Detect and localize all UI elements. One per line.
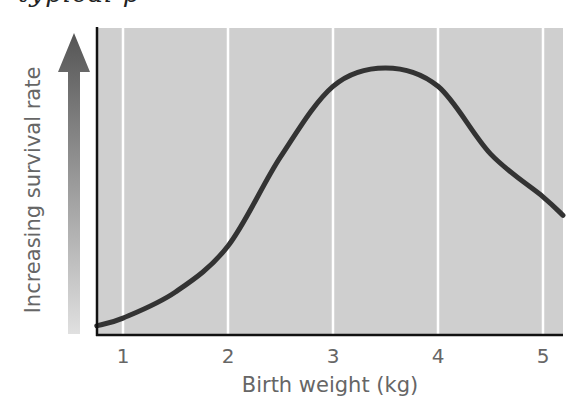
chart-canvas: Increasing survival rate 12345 Birth wei… (0, 0, 580, 413)
x-tick-label: 5 (537, 344, 550, 368)
x-tick-labels: 12345 (117, 344, 550, 368)
x-axis-label: Birth weight (kg) (242, 373, 418, 397)
cropped-caption-text: typical p (18, 0, 140, 8)
y-axis-label: Increasing survival rate (21, 67, 45, 314)
chart-figure: typical p Increasing survival rate 12345… (0, 0, 580, 413)
x-tick-label: 4 (432, 344, 445, 368)
x-tick-label: 3 (327, 344, 340, 368)
plot-area (97, 28, 563, 335)
up-arrow-gradient-icon (58, 33, 90, 334)
x-tick-label: 2 (222, 344, 235, 368)
x-tick-label: 1 (117, 344, 130, 368)
